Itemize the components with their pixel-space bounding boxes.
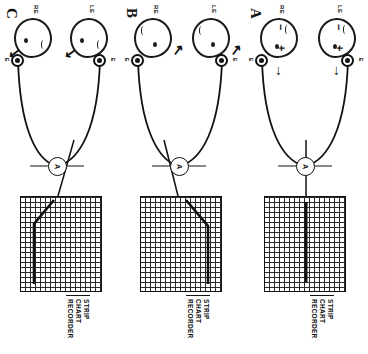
recorder-trace — [264, 196, 346, 292]
amplifier: A — [170, 157, 189, 176]
eye-pole-plus-re: + — [276, 45, 287, 51]
eye-label-le: LE — [211, 5, 217, 13]
electrode-upper — [215, 54, 228, 67]
pupil — [153, 42, 157, 47]
eye-re — [134, 18, 172, 58]
recorder-title: STRIP CHART RECORDER — [66, 295, 90, 333]
panel-a: LE − + → RE − + → E E A — [244, 0, 368, 354]
electrode-label-lower: E — [4, 58, 10, 61]
gaze-arrow-re: → — [274, 64, 288, 78]
eyelid — [97, 40, 102, 49]
figure-root: LE − + → RE − + → E E A — [0, 0, 368, 354]
electrode-lower — [131, 54, 144, 67]
strip-chart-recorder: STRIP CHART RECORDER — [20, 196, 102, 326]
electrode-lower — [11, 54, 24, 67]
eye-label-re: RE — [279, 5, 285, 14]
electrode-upper — [341, 54, 354, 67]
eye-label-re: RE — [153, 5, 159, 14]
strip-chart-recorder: STRIP CHART RECORDER — [140, 196, 222, 326]
electrode-lower — [255, 54, 268, 67]
eye-label-re: RE — [33, 5, 39, 14]
strip-chart-recorder: STRIP CHART RECORDER — [264, 196, 346, 326]
panel-letter-b: B — [123, 8, 140, 18]
recorder-title: STRIP CHART RECORDER — [186, 295, 210, 333]
amplifier: A — [296, 157, 315, 176]
eye-pole-plus-le: + — [334, 45, 345, 51]
eye-pole-minus-le: − — [333, 24, 344, 30]
electrode-label-upper: E — [110, 58, 116, 61]
recorder-title: STRIP CHART RECORDER — [310, 295, 334, 333]
gaze-arrow-le: ↘ — [63, 47, 79, 61]
eye-le — [192, 18, 230, 58]
panel-letter-c: C — [3, 8, 20, 19]
recorder-trace — [20, 196, 102, 292]
eye-pole-minus-re: − — [275, 24, 286, 30]
recorder-trace — [140, 196, 222, 292]
electrode-label-upper: E — [232, 58, 238, 61]
amplifier: A — [48, 157, 67, 176]
electrode-label-lower: E — [248, 58, 254, 61]
panel-b: LE ↖ RE ↖ E E A STRIP CHART RECOR — [120, 0, 240, 354]
electrode-label-lower: E — [124, 58, 130, 61]
pupil — [211, 42, 215, 47]
pupil — [80, 38, 84, 43]
eye-label-le: LE — [337, 5, 343, 13]
rotated-figure-canvas: LE − + → RE − + → E E A — [0, 0, 368, 354]
eyelid — [141, 26, 146, 35]
eyelid — [199, 26, 204, 35]
electrode-upper — [93, 54, 106, 67]
eye-label-le: LE — [89, 5, 95, 13]
pupil — [24, 38, 28, 43]
panel-letter-a: A — [247, 8, 264, 19]
gaze-arrow-le: ↖ — [229, 43, 245, 57]
panel-c: LE ↘ RE ↘ E E A STRIP CHART RECOR — [0, 0, 118, 354]
electrode-label-upper: E — [358, 58, 364, 61]
gaze-arrow-re: ↖ — [171, 43, 187, 57]
eyelid — [41, 40, 46, 49]
